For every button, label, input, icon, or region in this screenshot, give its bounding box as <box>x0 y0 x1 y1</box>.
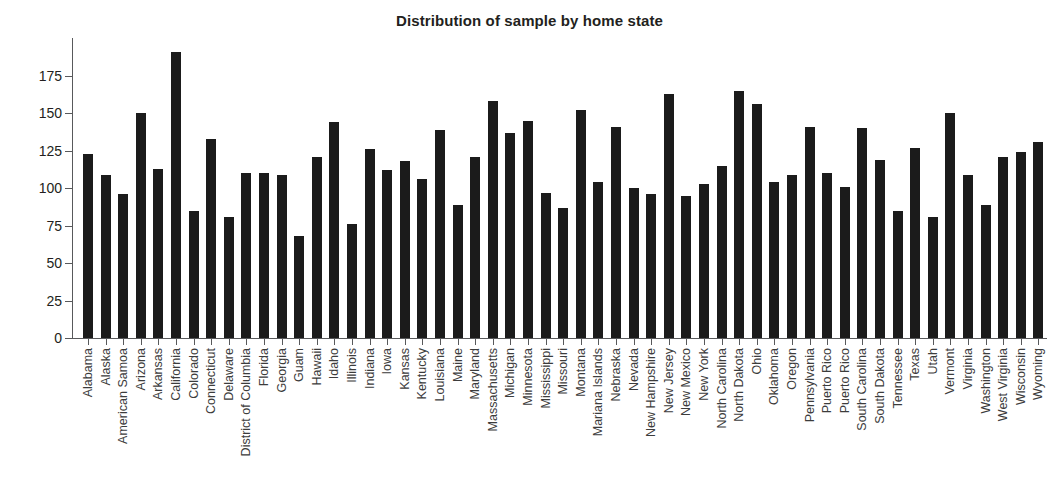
x-axis-tick <box>528 339 529 345</box>
bar <box>822 173 832 338</box>
x-axis-tick <box>810 339 811 345</box>
y-axis-tick <box>65 338 72 339</box>
bar <box>752 104 762 338</box>
x-axis-tick-label: Colorado <box>187 348 200 399</box>
bar <box>664 94 674 339</box>
y-axis-tick-label: 50 <box>16 256 62 270</box>
x-axis-tick-label: Michigan <box>504 348 517 398</box>
x-axis-tick-label: Texas <box>909 348 922 381</box>
bar <box>417 179 427 338</box>
y-axis-tick <box>65 263 72 264</box>
bar <box>470 157 480 339</box>
x-axis-tick <box>422 339 423 345</box>
x-axis-tick <box>704 339 705 345</box>
bar <box>136 113 146 338</box>
bar <box>805 127 815 339</box>
x-axis-tick-label: Idaho <box>328 348 341 379</box>
bar <box>83 154 93 339</box>
bar <box>382 170 392 338</box>
x-axis-tick <box>141 339 142 345</box>
x-axis-tick <box>246 339 247 345</box>
bar <box>611 127 621 339</box>
bar <box>453 205 463 339</box>
x-axis-tick <box>1021 339 1022 345</box>
bar <box>981 205 991 339</box>
y-axis-tick <box>65 76 72 77</box>
bar <box>294 236 304 338</box>
x-axis-tick <box>898 339 899 345</box>
x-axis-tick <box>88 339 89 345</box>
bar <box>277 175 287 339</box>
bar <box>206 139 216 339</box>
x-axis-tick-label: New York <box>698 348 711 401</box>
x-axis-tick <box>915 339 916 345</box>
x-axis-tick-label: Kansas <box>398 348 411 390</box>
y-axis-tick-label: 125 <box>16 144 62 158</box>
x-axis-tick-label: Alaska <box>99 348 112 386</box>
x-axis-tick <box>845 339 846 345</box>
bar <box>857 128 867 338</box>
x-axis-tick-label: New Hampshire <box>645 348 658 437</box>
x-axis-tick-label: Kentucky <box>416 348 429 399</box>
x-axis-tick-label: Georgia <box>275 348 288 392</box>
x-axis-tick-label: New Mexico <box>680 348 693 416</box>
bar <box>312 157 322 339</box>
y-axis-tick-label: 175 <box>16 69 62 83</box>
x-axis-tick <box>176 339 177 345</box>
x-axis-line <box>72 338 1047 339</box>
bar-chart: Distribution of sample by home state 025… <box>0 0 1059 496</box>
bar <box>153 169 163 339</box>
x-axis-tick-label: Puerto Rico <box>838 348 851 413</box>
bar <box>593 182 603 338</box>
bar <box>928 217 938 339</box>
x-axis-tick-label: Arizona <box>134 348 147 390</box>
chart-title: Distribution of sample by home state <box>0 12 1059 29</box>
x-axis-tick-label: Hawaii <box>310 348 323 386</box>
bar <box>1033 142 1043 339</box>
x-axis-tick-label: New Jersey <box>662 348 675 413</box>
x-axis-tick <box>334 339 335 345</box>
x-axis-tick-label: Louisiana <box>434 348 447 402</box>
x-axis-tick-label: Wisconsin <box>1014 348 1027 405</box>
y-axis-tick <box>65 113 72 114</box>
bar <box>259 173 269 338</box>
y-axis-tick-label: 0 <box>16 331 62 345</box>
x-axis-tick-label: Virginia <box>962 348 975 389</box>
x-axis-tick <box>194 339 195 345</box>
x-axis-tick-label: Mariana Islands <box>592 348 605 436</box>
x-axis-tick <box>634 339 635 345</box>
x-axis-tick <box>370 339 371 345</box>
x-axis-tick-label: California <box>170 348 183 401</box>
x-axis-tick-label: Connecticut <box>205 348 218 414</box>
bar <box>681 196 691 339</box>
x-axis-tick <box>546 339 547 345</box>
bar <box>963 175 973 339</box>
x-axis-tick-label: Ohio <box>750 348 763 374</box>
x-axis-tick <box>458 339 459 345</box>
bar <box>1016 152 1026 338</box>
x-axis-tick <box>968 339 969 345</box>
bar <box>329 122 339 338</box>
x-axis-tick <box>774 339 775 345</box>
bar <box>523 121 533 339</box>
bar <box>769 182 779 338</box>
x-axis-tick-label: Puerto Rico <box>821 348 834 413</box>
x-axis-tick <box>229 339 230 345</box>
bar <box>224 217 234 339</box>
x-axis-tick-label: Tennessee <box>891 348 904 408</box>
x-axis-tick <box>792 339 793 345</box>
x-axis-tick-label: Delaware <box>222 348 235 401</box>
x-axis-tick-label: Maryland <box>469 348 482 399</box>
x-axis-tick-label: Oregon <box>786 348 799 390</box>
x-axis-tick-label: Massachusetts <box>486 348 499 431</box>
bar <box>629 188 639 338</box>
x-axis-tick <box>317 339 318 345</box>
x-axis-tick-label: Illinois <box>346 348 359 383</box>
x-axis-tick <box>686 339 687 345</box>
x-axis-tick <box>405 339 406 345</box>
x-axis-tick-label: Alabama <box>82 348 95 397</box>
x-axis-tick-label: Arkansas <box>152 348 165 400</box>
x-axis-tick <box>1038 339 1039 345</box>
bar <box>558 208 568 339</box>
x-axis-tick <box>669 339 670 345</box>
